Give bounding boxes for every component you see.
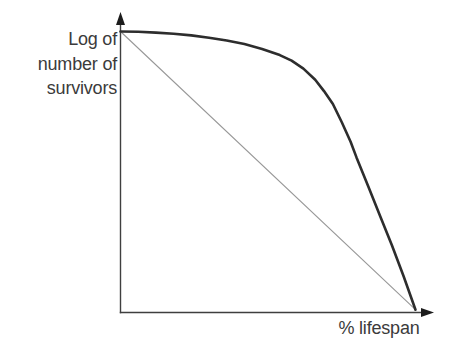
y-axis-label-line: survivors	[0, 76, 117, 101]
x-axis-label: % lifespan	[322, 318, 436, 339]
y-axis-label-line: number of	[0, 52, 117, 77]
x-axis-arrowhead-icon	[421, 308, 434, 317]
y-axis-label-line: Log of	[0, 27, 117, 52]
reference-line	[121, 32, 416, 310]
survivorship-figure: Log of number of survivors % lifespan	[0, 0, 450, 355]
y-axis-label: Log of number of survivors	[0, 27, 117, 101]
y-axis-arrowhead-icon	[116, 12, 125, 25]
